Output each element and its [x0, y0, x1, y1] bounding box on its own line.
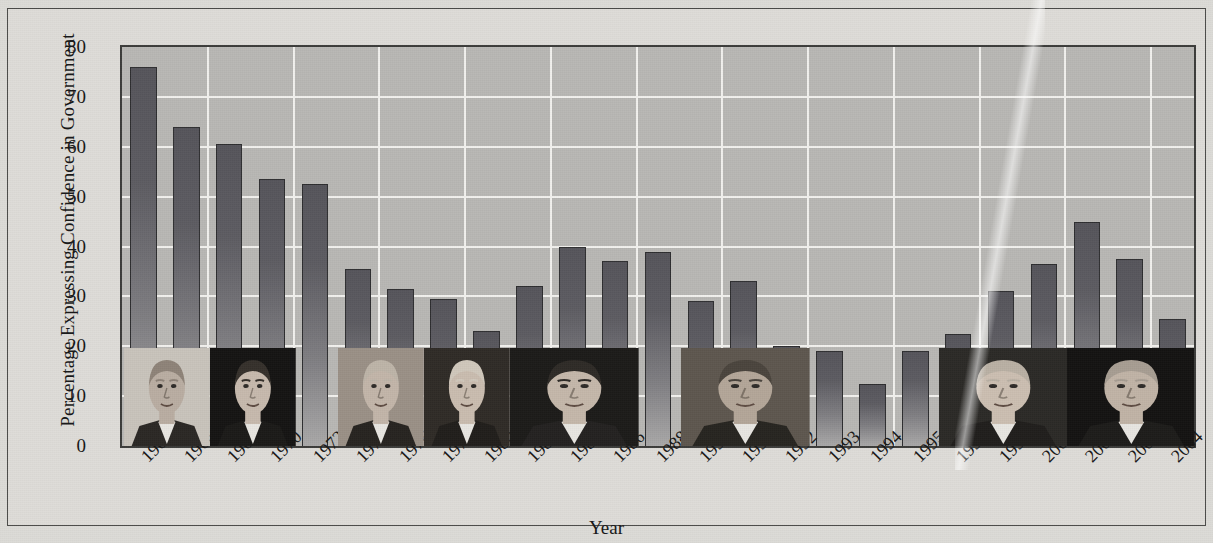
bar-1988 — [645, 252, 672, 447]
x-axis-tick-labels: 1964196619681970197219741976197819801982… — [120, 450, 1196, 512]
portrait-ronald-reagan — [510, 348, 639, 448]
x-axis-title: Year — [8, 517, 1205, 539]
portrait-george-h-w-bush — [681, 348, 810, 448]
chart-page: Percentage Expressing Confidence in Gove… — [0, 0, 1213, 543]
bar-1972 — [302, 184, 329, 446]
y-tick-50: 50 — [46, 186, 86, 208]
portrait-gerald-ford — [338, 348, 424, 448]
gridline-horizontal — [122, 146, 1194, 148]
bar-1995 — [902, 351, 929, 446]
portrait-jimmy-carter — [424, 348, 510, 448]
y-tick-30: 30 — [46, 285, 86, 307]
y-tick-20: 20 — [46, 335, 86, 357]
y-tick-40: 40 — [46, 236, 86, 258]
bar-1993 — [816, 351, 843, 446]
y-tick-80: 80 — [46, 36, 86, 58]
y-tick-10: 10 — [46, 385, 86, 407]
y-tick-0: 0 — [46, 435, 86, 457]
portrait-george-w-bush — [1067, 348, 1196, 448]
y-tick-60: 60 — [46, 136, 86, 158]
portrait-richard-nixon — [210, 348, 296, 448]
y-axis-title: Percentage Expressing Confidence in Gove… — [57, 20, 79, 440]
portrait-lyndon-b-johnson — [124, 348, 210, 448]
figure-frame: Percentage Expressing Confidence in Gove… — [7, 8, 1206, 526]
gridline-horizontal — [122, 96, 1194, 98]
portrait-bill-clinton — [939, 348, 1068, 448]
plot-area — [120, 45, 1196, 448]
gridline-vertical — [893, 47, 895, 446]
y-tick-70: 70 — [46, 86, 86, 108]
